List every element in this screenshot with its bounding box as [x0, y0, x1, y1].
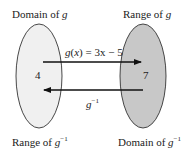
label-range-of-g-inverse: Range of g−1 — [12, 135, 68, 148]
domain-value: 4 — [35, 69, 41, 81]
label-domain-of-g-inverse: Domain of g−1 — [118, 135, 182, 148]
label-domain-of-g: Domain of g — [12, 8, 68, 20]
inverse-function-label: g−1 — [86, 97, 99, 110]
range-value: 7 — [143, 69, 149, 81]
function-mapping-diagram: Domain of g Range of g 4 7 g(x) = 3x − 5… — [0, 0, 184, 150]
forward-function-label: g(x) = 3x − 5 — [65, 46, 123, 59]
label-range-of-g: Range of g — [123, 8, 172, 20]
